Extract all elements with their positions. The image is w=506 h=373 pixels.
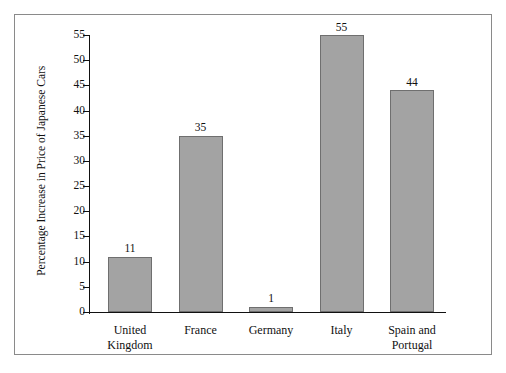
y-tick-label: 50 — [74, 54, 86, 66]
x-axis-category-line: France — [184, 323, 217, 338]
x-axis-category-line: Kingdom — [107, 338, 152, 353]
bar: 44 — [390, 90, 434, 312]
y-tick-label: 25 — [74, 180, 86, 192]
x-axis-category-label: France — [184, 323, 217, 338]
x-axis-category-label: UnitedKingdom — [107, 323, 152, 353]
y-tick-label: 15 — [74, 231, 86, 243]
x-axis-category-line: United — [107, 323, 152, 338]
y-tick-label: 45 — [74, 80, 86, 92]
x-axis-category-line: Portugal — [388, 338, 436, 353]
y-tick-label: 10 — [74, 256, 86, 268]
x-axis-category-line: Italy — [331, 323, 353, 338]
chart-figure: Percentage Increase in Price of Japanese… — [0, 0, 506, 373]
y-tick-label: 55 — [74, 29, 86, 41]
x-axis-category-label: Spain andPortugal — [388, 323, 436, 353]
x-axis-category-line: Germany — [249, 323, 294, 338]
y-tick-label: 0 — [79, 306, 85, 318]
y-tick-label: 40 — [74, 105, 86, 117]
bar-value-label: 35 — [195, 122, 207, 134]
bar: 55 — [320, 35, 364, 312]
bar-value-label: 11 — [124, 243, 135, 255]
x-axis-line — [89, 312, 446, 313]
y-axis-line — [89, 35, 90, 314]
y-axis-title: Percentage Increase in Price of Japanese… — [31, 0, 53, 341]
bar-value-label: 44 — [406, 77, 418, 89]
bar: 35 — [179, 136, 223, 312]
x-axis-category-line: Spain and — [388, 323, 436, 338]
y-tick-label: 5 — [79, 281, 85, 293]
y-axis-title-text: Percentage Increase in Price of Japanese… — [36, 65, 48, 275]
bar-value-label: 55 — [336, 22, 348, 34]
plot-area: 0510152025303540455055 UnitedKingdom11Fr… — [89, 35, 446, 313]
y-tick-label: 20 — [74, 206, 86, 218]
bar-value-label: 1 — [268, 293, 274, 305]
bar: 1 — [249, 307, 293, 312]
x-axis-category-label: Italy — [331, 323, 353, 338]
y-tick-label: 30 — [74, 155, 86, 167]
bar: 11 — [108, 257, 152, 312]
y-tick-label: 35 — [74, 130, 86, 142]
x-axis-category-label: Germany — [249, 323, 294, 338]
